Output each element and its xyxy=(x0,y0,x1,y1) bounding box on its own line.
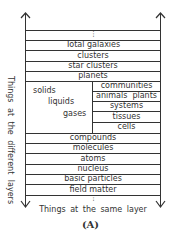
row-total-galaxies: Total galaxies xyxy=(25,40,161,50)
row-nucleus: nucleus xyxy=(25,164,161,174)
bio-communities: communities xyxy=(92,81,161,91)
row-clusters: clusters xyxy=(25,51,161,61)
row-compounds: compounds xyxy=(25,133,161,143)
bio-systems: systems xyxy=(92,101,161,111)
row-star-clusters: star clusters xyxy=(25,61,161,71)
figure-caption: (A) xyxy=(0,219,181,230)
state-liquids: liquids xyxy=(48,97,74,106)
row-molecules: molecules xyxy=(25,143,161,153)
row-atoms: atoms xyxy=(25,154,161,164)
bio-animals-plants: animals plants xyxy=(92,91,161,101)
horizontal-axis-label: Things at the same layer xyxy=(25,205,161,214)
row-planets: planets xyxy=(25,71,161,81)
bio-cells: cells xyxy=(92,122,161,132)
right-up-arrow-icon xyxy=(155,12,166,19)
row-basic-particles: basic particles xyxy=(25,174,161,184)
top-ellipsis: ⋮ xyxy=(90,33,96,36)
left-up-arrow-icon xyxy=(20,12,31,19)
state-solids: solids xyxy=(33,86,56,95)
bottom-ellipsis: ⋮ xyxy=(90,197,96,200)
bio-tissues: tissues xyxy=(92,112,161,122)
vertical-axis-label: Things at the different layers xyxy=(5,76,15,196)
state-gases: gases xyxy=(63,109,86,118)
